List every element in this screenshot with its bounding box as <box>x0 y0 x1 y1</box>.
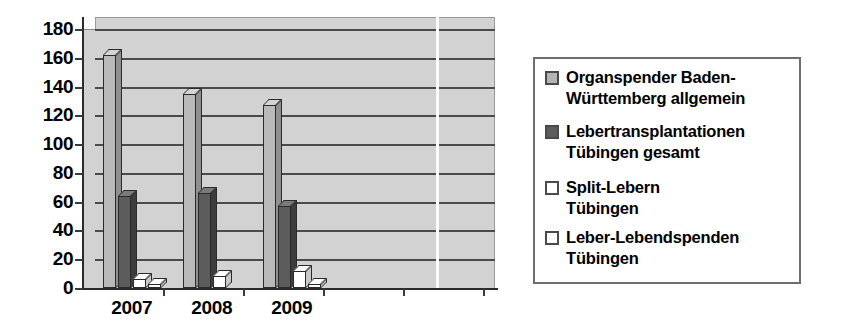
x-axis-tickmark <box>483 288 485 296</box>
legend-item-4[interactable]: Leber-LebendspendenTübingen <box>545 227 797 269</box>
x-axis-tick-label: 2007 <box>92 297 172 319</box>
legend-item-1[interactable]: Organspender Baden-Württemberg allgemein <box>545 67 797 109</box>
legend-label-line1: Leber-Lebendspenden <box>566 228 739 246</box>
legend-label-line1: Split-Lebern <box>566 178 660 196</box>
chart-legend: Organspender Baden-Württemberg allgemein… <box>533 57 801 284</box>
legend-swatch-icon <box>545 125 559 139</box>
x-axis-tick-label: 2008 <box>172 297 252 319</box>
legend-label-line2: Tübingen gesamt <box>566 143 700 161</box>
x-axis-tickmark <box>323 288 325 296</box>
x-axis-tick-label: 2009 <box>252 297 332 319</box>
legend-label: Split-LebernTübingen <box>566 177 660 219</box>
legend-label-line1: Lebertransplantationen <box>566 122 745 140</box>
legend-item-2[interactable]: LebertransplantationenTübingen gesamt <box>545 121 797 163</box>
legend-swatch-icon <box>545 71 559 85</box>
x-axis-labels: 200720082009 <box>0 0 520 331</box>
legend-label: Leber-LebendspendenTübingen <box>566 227 739 269</box>
legend-swatch-icon <box>545 181 559 195</box>
legend-swatch-icon <box>545 231 559 245</box>
legend-label: Organspender Baden-Württemberg allgemein <box>566 67 745 109</box>
x-axis-tickmark <box>163 288 165 296</box>
x-axis-tickmark <box>243 288 245 296</box>
legend-item-3[interactable]: Split-LebernTübingen <box>545 177 797 219</box>
legend-label: LebertransplantationenTübingen gesamt <box>566 121 745 163</box>
legend-label-line2: Tübingen <box>566 249 639 267</box>
x-axis-tickmark <box>403 288 405 296</box>
chart-screenshot: 020406080100120140160180 200720082009 Or… <box>0 0 843 331</box>
legend-label-line2: Tübingen <box>566 199 639 217</box>
legend-label-line1: Organspender Baden- <box>566 68 735 86</box>
legend-label-line2: Württemberg allgemein <box>566 89 745 107</box>
bar-chart: 020406080100120140160180 200720082009 <box>0 0 520 331</box>
